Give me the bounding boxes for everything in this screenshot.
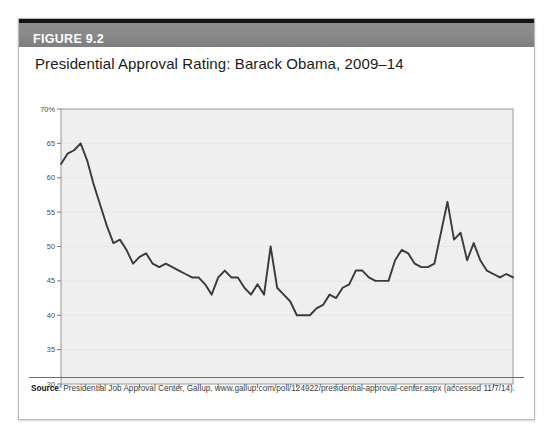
figure-title: Presidential Approval Rating: Barack Oba… <box>35 55 404 72</box>
source-prefix: Source <box>31 384 59 393</box>
figure-header-bar: FIGURE 9.2 <box>19 19 534 47</box>
y-tick-label: 70% <box>40 105 55 114</box>
approval-rating-line-chart: 303540455055606570% Feb 09Aug 09Feb 10Au… <box>19 81 536 391</box>
y-axis-tick-labels: 303540455055606570% <box>40 105 55 389</box>
y-tick-label: 50 <box>47 242 55 251</box>
y-tick-label: 45 <box>47 276 55 285</box>
y-tick-label: 40 <box>47 311 55 320</box>
source-note: Source: Presidential Job Approval Center… <box>31 384 526 394</box>
figure-box: FIGURE 9.2 Presidential Approval Rating:… <box>18 18 535 420</box>
chart-area: 303540455055606570% Feb 09Aug 09Feb 10Au… <box>19 81 534 391</box>
y-tick-label: 55 <box>47 208 55 217</box>
source-divider <box>29 377 524 378</box>
y-tick-label: 65 <box>47 139 55 148</box>
y-tick-label: 60 <box>47 173 55 182</box>
y-axis-ticks <box>57 109 61 384</box>
figure-number-label: FIGURE 9.2 <box>33 32 104 46</box>
y-tick-label: 35 <box>47 345 55 354</box>
source-text: : Presidential Job Approval Center, Gall… <box>59 384 515 393</box>
